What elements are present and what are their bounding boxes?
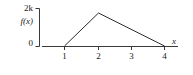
x-axis-name-label: x (171, 36, 176, 46)
x-tick-label-3: 3 (129, 51, 134, 61)
x-tick-label-1: 1 (62, 51, 67, 61)
y-axis-bottom-label: 0 (29, 38, 34, 48)
y-axis-bracket (36, 9, 40, 47)
x-tick-label-4: 4 (162, 51, 167, 61)
density-curve-triangle (65, 13, 165, 46)
probability-density-figure: 2k f(x) 0 1 2 3 4 x (0, 0, 193, 75)
y-axis-top-label: 2k (24, 3, 34, 13)
x-tick-label-2: 2 (96, 51, 101, 61)
chart-canvas: 2k f(x) 0 1 2 3 4 x (0, 0, 193, 75)
y-axis-name-label: f(x) (21, 16, 34, 26)
